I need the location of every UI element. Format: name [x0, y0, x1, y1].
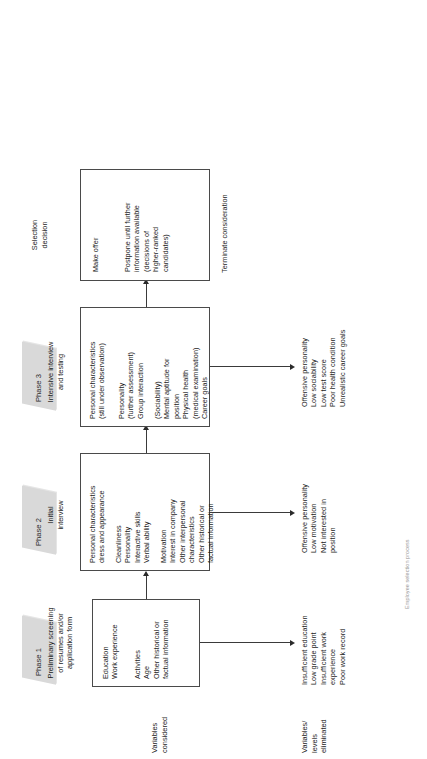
connector-phase2-to-eliminated-arrowhead	[290, 510, 295, 516]
phase-3-banner-label: Intensive interview and testing	[46, 321, 65, 423]
selection-process-flowchart: Variables considered Variables/ levels e…	[0, 0, 427, 759]
phase-3-box-group-0: Personal characteristics (still under ob…	[88, 307, 107, 419]
phase-3-box[interactable]: Personal characteristics (still under ob…	[80, 307, 210, 427]
phase-1-banner-label: Preliminary screening of resumes and/or …	[46, 595, 75, 691]
connector-phase1-to-phase2	[146, 575, 147, 599]
phase-2-box-group-0: Personal characteristics dress and appea…	[88, 455, 107, 563]
connector-phase3-to-eliminated	[210, 366, 292, 367]
phase-3-eliminated-list: Offensive personality Low sociability Lo…	[300, 277, 347, 407]
axis-label-variables-eliminated: Variables/ levels eliminated	[300, 719, 329, 753]
phase-2-box-group-1: Cleanliness Personality Interactive skil…	[114, 455, 152, 563]
phase-1-box[interactable]: Education Work experience Activities Age…	[92, 599, 200, 687]
phase-1-box-group-0: Education Work experience	[101, 599, 120, 679]
decision-option-terminate: Terminate consideration	[220, 153, 229, 273]
connector-phase1-to-eliminated	[200, 642, 292, 643]
phase-2-banner-label: Initial interview	[46, 473, 65, 557]
axis-label-variables-considered: Variables considered	[150, 717, 169, 753]
figure-stage: Variables considered Variables/ levels e…	[0, 0, 427, 759]
decision-option-make-offer: Make offer	[91, 172, 100, 272]
phase-1-eliminated-list: Insufficient education Low grade point I…	[300, 565, 347, 685]
connector-phase2-to-phase3	[146, 429, 147, 453]
connector-phase1-to-eliminated-arrowhead	[290, 640, 295, 646]
connector-phase3-to-eliminated-arrowhead	[290, 364, 295, 370]
selection-decision-box[interactable]: Make offer Postpone until further inform…	[80, 169, 210, 281]
phase-2-eliminated-list: Offensive personality Low motivation Not…	[300, 433, 338, 553]
selection-decision-banner-label: Selection decision	[30, 199, 49, 271]
phase-3-box-group-2: (Sociability) Mental aptitude for positi…	[153, 307, 209, 419]
phase-1-box-group-1: Activities Age Other historical or factu…	[133, 597, 171, 679]
phase-3-box-group-1: Personality (further assessment) Group i…	[117, 307, 145, 419]
connector-phase1-to-phase2-arrowhead	[143, 571, 149, 576]
figure-caption: Employee selection process	[404, 539, 411, 609]
phase-2-box[interactable]: Personal characteristics dress and appea…	[80, 453, 210, 571]
connector-phase3-to-decision	[146, 283, 147, 307]
phase-2-box-group-2: Motivation Interest in company Other int…	[159, 453, 215, 563]
connector-phase2-to-eliminated	[210, 512, 292, 513]
decision-option-postpone: Postpone until further information avail…	[123, 172, 170, 272]
